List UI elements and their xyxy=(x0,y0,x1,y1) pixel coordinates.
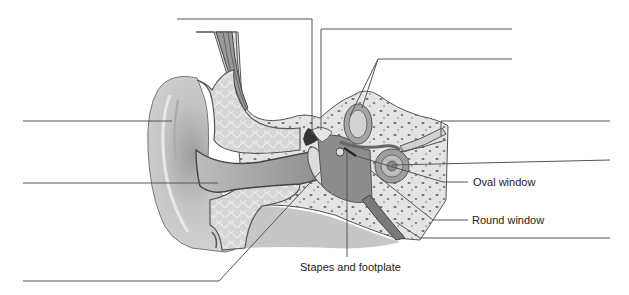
ear-illustration xyxy=(0,0,629,295)
leader-line-right-1 xyxy=(441,121,610,136)
label-stapes-footplate: Stapes and footplate xyxy=(300,261,401,273)
label-round-window: Round window xyxy=(472,214,544,226)
label-oval-window: Oval window xyxy=(473,176,535,188)
ear-anatomy-diagram: Oval window Round window Stapes and foot… xyxy=(0,0,629,295)
